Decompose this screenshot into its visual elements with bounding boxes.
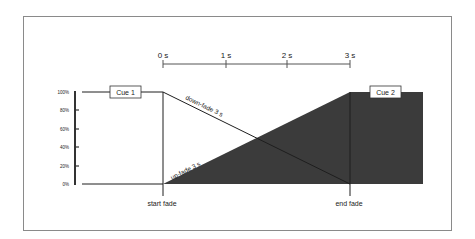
cue2-label: Cue 2	[376, 89, 395, 96]
start-fade-label: start fade	[147, 200, 176, 207]
timeline-label: 1 s	[221, 51, 232, 60]
end-fade-label: end fade	[335, 200, 362, 207]
y-label: 40%	[60, 145, 69, 150]
timeline-label: 0 s	[158, 51, 169, 60]
timeline-label: 2 s	[282, 51, 293, 60]
timeline-label: 3 s	[345, 51, 356, 60]
y-label: 60%	[60, 127, 69, 132]
cue1-label: Cue 1	[116, 89, 135, 96]
cue2-box: Cue 2	[370, 86, 401, 98]
cue1-box: Cue 1	[110, 86, 141, 98]
y-label: 20%	[60, 164, 69, 169]
y-axis: 100% 80% 60% 40% 20% 0%	[57, 90, 79, 187]
y-label: 100%	[57, 90, 69, 95]
y-label: 80%	[60, 108, 69, 113]
fade-diagram: 0 s 1 s 2 s 3 s 100% 80% 60% 40% 20% 0% …	[0, 0, 475, 239]
y-label: 0%	[62, 182, 69, 187]
timeline: 0 s 1 s 2 s 3 s	[158, 51, 356, 68]
